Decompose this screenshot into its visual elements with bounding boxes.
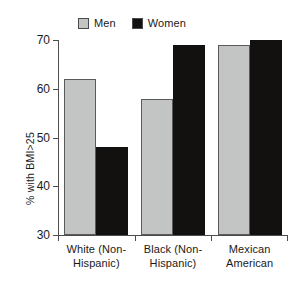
y-tick-label-50: 50 [10, 132, 50, 144]
x-tick-0 [58, 236, 59, 241]
plot-area: 3040506070 [58, 40, 288, 235]
x-category-label-0: White (Non-Hispanic) [52, 243, 141, 270]
x-category-label-1: Black (Non-Hispanic) [129, 243, 218, 270]
legend-entry-men: Men [78, 18, 116, 29]
bar-women-1 [173, 45, 205, 235]
x-category-line2: Hispanic) [52, 257, 141, 271]
y-tick-60 [53, 89, 58, 90]
bar-women-2 [250, 40, 282, 235]
legend-swatch-men-icon [78, 18, 89, 29]
x-tick-1 [135, 236, 136, 241]
x-tick-3 [287, 236, 288, 241]
x-category-line1: Mexican [205, 243, 294, 257]
legend-entry-women: Women [132, 18, 186, 29]
y-tick-50 [53, 138, 58, 139]
x-category-label-2: MexicanAmerican [205, 243, 294, 270]
y-tick-40 [53, 186, 58, 187]
x-category-line2: Hispanic) [129, 257, 218, 271]
legend-label-women: Women [148, 18, 186, 29]
bar-chart: Men Women % with BMI>25 3040506070 White… [0, 0, 303, 282]
y-tick-label-30: 30 [10, 229, 50, 241]
x-category-line2: American [205, 257, 294, 271]
bar-men-1 [141, 99, 173, 236]
x-tick-2 [211, 236, 212, 241]
chart-legend: Men Women [78, 15, 186, 31]
bar-men-0 [64, 79, 96, 235]
bar-men-2 [218, 45, 250, 235]
y-tick-label-70: 70 [10, 34, 50, 46]
y-axis-line [58, 40, 59, 235]
y-tick-label-40: 40 [10, 180, 50, 192]
x-category-line1: Black (Non- [129, 243, 218, 257]
y-tick-label-60: 60 [10, 83, 50, 95]
legend-swatch-women-icon [132, 18, 143, 29]
legend-label-men: Men [94, 18, 116, 29]
bar-women-0 [96, 147, 128, 235]
x-axis-line [58, 235, 288, 236]
y-tick-70 [53, 40, 58, 41]
x-category-line1: White (Non- [52, 243, 141, 257]
